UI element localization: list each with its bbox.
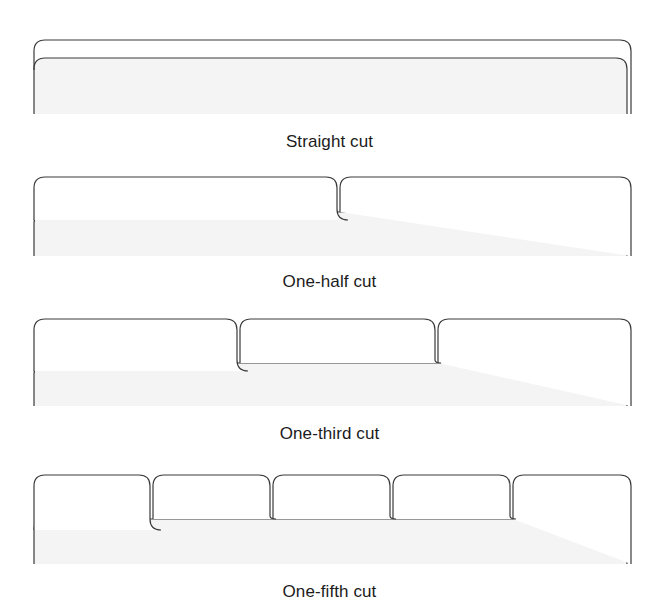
folder-diagram-straight-cut <box>0 30 659 116</box>
folder-tab-2 <box>153 475 276 519</box>
figure-one-third-cut: One-third cut <box>0 312 659 444</box>
figure-straight-cut: Straight cut <box>0 30 659 152</box>
folder-tab-4 <box>393 475 516 519</box>
illustration-page: Straight cut One-half cut One-third cut <box>0 0 659 603</box>
figure-one-fifth-cut: One-fifth cut <box>0 468 659 602</box>
folder-tab-1 <box>34 475 161 530</box>
folder-body-panel <box>34 58 627 114</box>
folder-diagram-one-fifth-cut <box>0 468 659 566</box>
folder-tab-2 <box>240 319 441 363</box>
figure-caption-straight-cut: Straight cut <box>0 132 659 152</box>
folder-tab-1 <box>34 319 248 371</box>
figure-caption-one-third-cut: One-third cut <box>0 424 659 444</box>
folder-diagram-one-third-cut <box>0 312 659 408</box>
figure-caption-one-half-cut: One-half cut <box>0 272 659 292</box>
folder-tab-1 <box>34 177 348 220</box>
figure-caption-one-fifth-cut: One-fifth cut <box>0 582 659 602</box>
figure-one-half-cut: One-half cut <box>0 168 659 292</box>
folder-diagram-one-half-cut <box>0 168 659 258</box>
folder-tab-3 <box>273 475 396 519</box>
